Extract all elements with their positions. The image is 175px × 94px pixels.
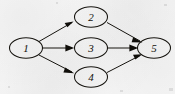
arrowhead-1-to-3-icon — [65, 45, 74, 52]
edge-1-to-2 — [39, 22, 74, 42]
edge-4-to-5 — [107, 54, 142, 72]
directed-graph-canvas: 1 2 3 4 5 — [0, 0, 175, 94]
graph-node-1[interactable]: 1 — [10, 38, 43, 58]
graph-node-3-label: 3 — [87, 42, 94, 54]
graph-node-5-label: 5 — [151, 42, 157, 54]
graph-node-4[interactable]: 4 — [75, 67, 108, 87]
graph-node-5[interactable]: 5 — [138, 38, 171, 58]
graph-node-2[interactable]: 2 — [75, 7, 108, 27]
node-group: 1 2 3 4 5 — [10, 7, 171, 87]
edge-2-to-5 — [107, 23, 142, 43]
arrowhead-3-to-5-icon — [129, 45, 138, 52]
arrowhead-1-to-4-icon — [63, 68, 74, 74]
graph-node-3[interactable]: 3 — [75, 38, 108, 58]
edge-1-to-3 — [42, 45, 74, 52]
graph-figure: 1 2 3 4 5 — [0, 0, 175, 94]
edge-3-to-5 — [107, 45, 138, 52]
graph-node-4-label: 4 — [88, 71, 94, 83]
graph-node-2-label: 2 — [88, 11, 94, 23]
edge-2-to-5-line — [107, 23, 140, 42]
edge-1-to-4 — [39, 55, 74, 73]
graph-node-1-label: 1 — [23, 42, 29, 54]
